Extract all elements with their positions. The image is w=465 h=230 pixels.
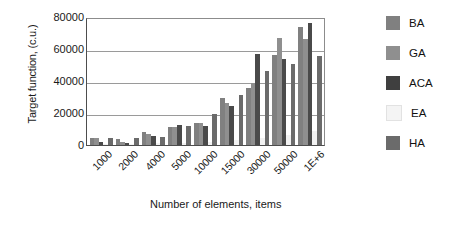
x-tick-label: 1000 bbox=[89, 148, 113, 172]
bar-ha bbox=[317, 56, 322, 145]
legend-swatch-ba bbox=[386, 16, 400, 30]
bar-ha bbox=[108, 138, 113, 145]
bar-group bbox=[140, 19, 166, 145]
bar-group bbox=[88, 19, 114, 145]
y-tick-label: 40000 bbox=[32, 76, 84, 87]
legend: BAGAACAEAHA bbox=[386, 16, 462, 156]
bar-ha bbox=[239, 95, 244, 145]
bar-group bbox=[245, 19, 271, 145]
x-tick-label: 1E+6 bbox=[301, 148, 326, 173]
x-tick-label: 50000 bbox=[271, 148, 299, 176]
x-axis-title: Number of elements, items bbox=[150, 198, 281, 210]
legend-label-ba: BA bbox=[409, 17, 424, 29]
bar-aca bbox=[255, 54, 260, 145]
x-tick-label: 4000 bbox=[142, 148, 166, 172]
bar-chart-figure: Target function, (c.u.) 0200004000060000… bbox=[0, 0, 465, 230]
y-axis-tick-labels: 020000400006000080000 bbox=[30, 0, 84, 230]
legend-swatch-ha bbox=[386, 136, 400, 150]
legend-item-ha[interactable]: HA bbox=[386, 136, 425, 150]
bar-group bbox=[192, 19, 218, 145]
y-tick-label: 80000 bbox=[32, 12, 84, 23]
y-tick-label: 20000 bbox=[32, 108, 84, 119]
legend-label-ha: HA bbox=[409, 137, 425, 149]
x-tick-label: 30000 bbox=[245, 148, 273, 176]
bar-group bbox=[271, 19, 297, 145]
plot-area bbox=[86, 18, 325, 146]
legend-swatch-ea bbox=[386, 105, 402, 121]
legend-swatch-aca bbox=[386, 76, 400, 90]
bar-ha bbox=[134, 138, 139, 145]
bar-ha bbox=[265, 71, 270, 145]
bar-ha bbox=[212, 114, 217, 145]
legend-item-ga[interactable]: GA bbox=[386, 46, 426, 60]
legend-label-ea: EA bbox=[411, 107, 426, 119]
bar-aca bbox=[282, 59, 287, 145]
bar-groups bbox=[87, 19, 324, 145]
bar-group bbox=[219, 19, 245, 145]
legend-item-ea[interactable]: EA bbox=[386, 106, 426, 120]
bar-ha bbox=[160, 137, 165, 145]
legend-item-aca[interactable]: ACA bbox=[386, 76, 433, 90]
y-tick-label: 60000 bbox=[32, 44, 84, 55]
legend-label-aca: ACA bbox=[409, 77, 433, 89]
bar-group bbox=[114, 19, 140, 145]
legend-swatch-ga bbox=[386, 46, 400, 60]
y-tick-label: 0 bbox=[32, 140, 84, 151]
bar-aca bbox=[229, 106, 234, 145]
x-tick-label: 5000 bbox=[169, 148, 193, 172]
legend-label-ga: GA bbox=[409, 47, 426, 59]
bar-aca bbox=[308, 23, 313, 145]
bar-ha bbox=[186, 126, 191, 145]
bar-group bbox=[166, 19, 192, 145]
x-axis-tick-labels: 1000200040005000100001500030000500001E+6 bbox=[86, 146, 325, 192]
x-tick-label: 15000 bbox=[218, 148, 246, 176]
legend-item-ba[interactable]: BA bbox=[386, 16, 424, 30]
bar-group bbox=[297, 19, 323, 145]
bar-ha bbox=[291, 64, 296, 145]
x-tick-label: 2000 bbox=[116, 148, 140, 172]
x-tick-label: 10000 bbox=[192, 148, 220, 176]
